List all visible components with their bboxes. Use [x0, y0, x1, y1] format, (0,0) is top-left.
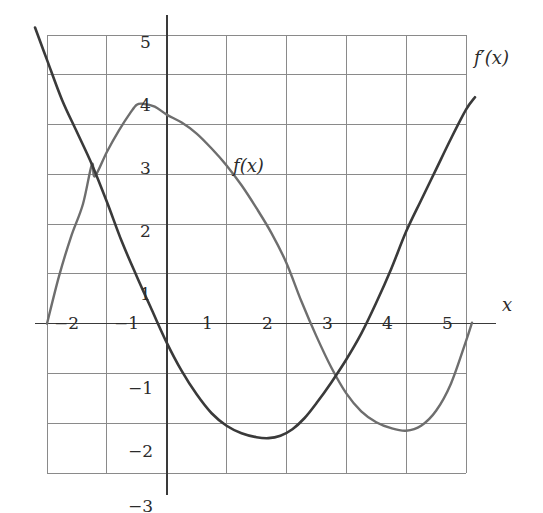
x-tick-label-4: 4	[382, 313, 393, 333]
y-tick-label-3: 3	[140, 158, 151, 178]
y-tick-label-4: 4	[140, 95, 151, 115]
x-tick-label-3: 3	[322, 313, 333, 333]
x-tick-label-1: 1	[202, 313, 213, 333]
y-tick-label-neg1: −1	[128, 378, 153, 398]
x-tick-label-neg2: −2	[54, 313, 79, 333]
y-tick-label-2: 2	[140, 221, 151, 241]
y-tick-label-neg3: −3	[128, 496, 153, 513]
curve-label-f: f(x)	[233, 155, 264, 176]
curve-label-f-prime: f′(x)	[474, 47, 509, 68]
x-axis-name: x	[502, 294, 512, 315]
x-tick-label-2: 2	[262, 313, 273, 333]
plot-canvas	[0, 0, 543, 513]
y-tick-label-neg2: −2	[128, 441, 153, 461]
y-tick-label-5: 5	[140, 32, 151, 52]
curve-f	[47, 103, 472, 430]
y-tick-label-1: 1	[140, 284, 151, 304]
curve-f-prime	[35, 28, 475, 439]
x-tick-label-neg1: −1	[114, 313, 139, 333]
x-tick-label-5: 5	[442, 313, 453, 333]
figure-container: 5 4 3 2 1 −1 −2 −3 −2 −1 1 2 3 4 5 f(x) …	[0, 0, 543, 513]
